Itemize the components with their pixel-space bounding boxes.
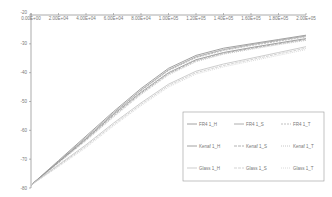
y-tick-label: -20 [20,10,27,15]
legend-label: FR4 1_H [199,122,217,127]
legend-label: Kenaf 1_S [246,144,267,149]
line-chart: -20-30-40-50-60-70-800.00E+002.00E+044.0… [0,0,332,197]
y-tick-label: -70 [20,157,27,162]
legend-label: Kenaf 1_H [199,144,220,149]
legend-label: Glass 1_T [293,166,314,171]
legend-label: FR4 1_T [293,122,311,127]
x-tick-label: 0.00E+00 [21,16,41,21]
legend-label: Kenaf 1_T [293,144,314,149]
y-tick-label: -80 [20,186,27,191]
y-tick-label: -40 [20,70,27,75]
y-tick-label: -30 [20,41,27,46]
x-tick-label: 4.00E+04 [76,16,96,21]
legend-label: Glass 1_H [199,166,220,171]
y-tick-label: -60 [20,128,27,133]
legend-label: FR4 1_S [246,122,264,127]
x-tick-label: 1.60E+05 [241,16,261,21]
x-tick-label: 6.00E+04 [104,16,124,21]
y-tick-label: -50 [20,99,27,104]
x-tick-label: 1.40E+05 [214,16,234,21]
x-tick-label: 2.00E+04 [49,16,69,21]
legend-label: Glass 1_S [246,166,267,171]
x-tick-label: 1.80E+05 [269,16,289,21]
x-tick-label: 1.20E+05 [186,16,206,21]
x-tick-label: 1.00E+05 [159,16,179,21]
x-tick-label: 8.00E+04 [131,16,151,21]
x-tick-label: 2.00E+05 [296,16,316,21]
legend: FR4 1_HFR4 1_SFR4 1_TKenaf 1_HKenaf 1_SK… [183,112,324,181]
